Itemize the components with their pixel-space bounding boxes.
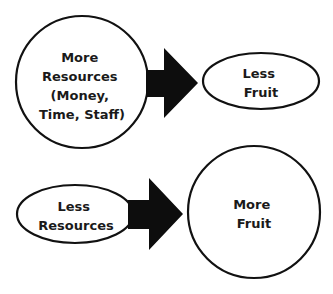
node-label-line: Fruit: [244, 85, 278, 100]
node-label-line: Less: [242, 66, 275, 81]
less-fruit-ellipse: [203, 53, 319, 109]
bottom-row: Less Resources More Fruit: [17, 146, 320, 278]
node-label-line: Time, Staff): [39, 107, 125, 122]
node-label-line: Resources: [42, 69, 118, 84]
arrow-right-icon: [146, 48, 198, 118]
resources-fruit-diagram: More Resources (Money, Time, Staff) Less…: [0, 0, 333, 294]
node-label-line: (Money,: [51, 88, 109, 103]
more-fruit-circle: [188, 146, 320, 278]
node-label-line: Resources: [38, 218, 114, 233]
top-row: More Resources (Money, Time, Staff) Less…: [16, 16, 319, 148]
more-fruit-node: More Fruit: [188, 146, 320, 278]
less-resources-ellipse: [17, 185, 133, 243]
more-resources-node: More Resources (Money, Time, Staff): [16, 16, 148, 148]
less-fruit-node: Less Fruit: [203, 53, 319, 109]
arrow-right-icon: [128, 178, 183, 250]
node-label-line: More: [233, 197, 270, 212]
node-label-line: Less: [57, 199, 90, 214]
less-resources-node: Less Resources: [17, 185, 133, 243]
node-label-line: More: [61, 50, 98, 65]
node-label-line: Fruit: [237, 216, 271, 231]
